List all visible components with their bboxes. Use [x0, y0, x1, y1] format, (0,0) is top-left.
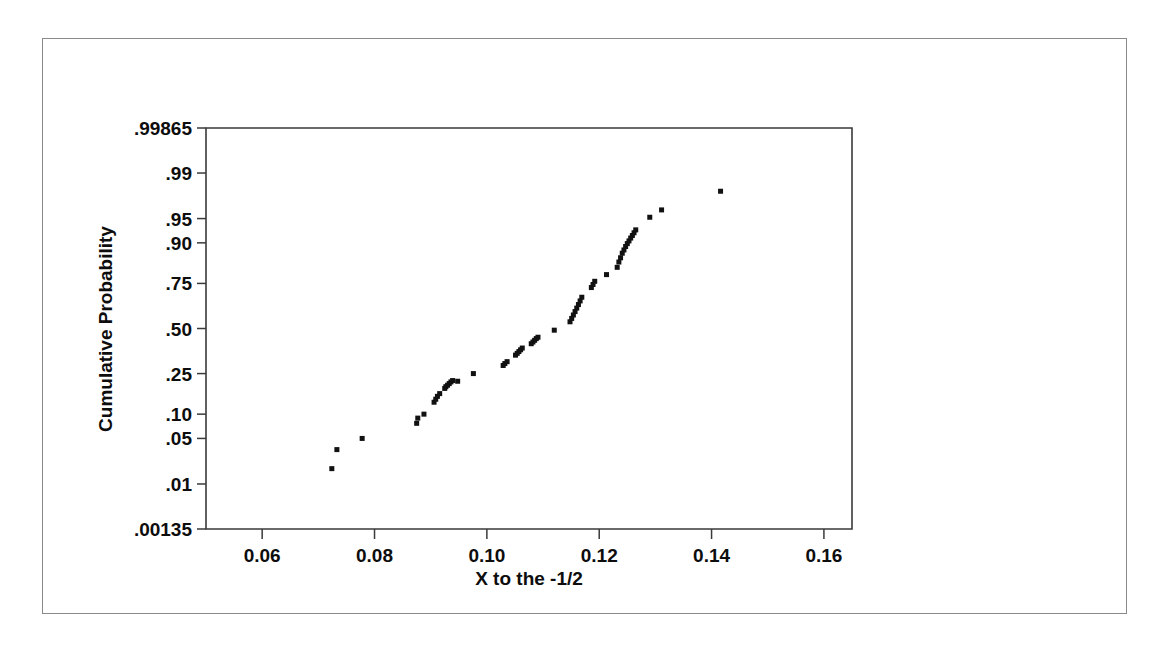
figure-outer-border — [42, 38, 1127, 614]
figure-root: .00135.01.05.10.25.50.75.90.95.99.99865 … — [0, 0, 1160, 645]
